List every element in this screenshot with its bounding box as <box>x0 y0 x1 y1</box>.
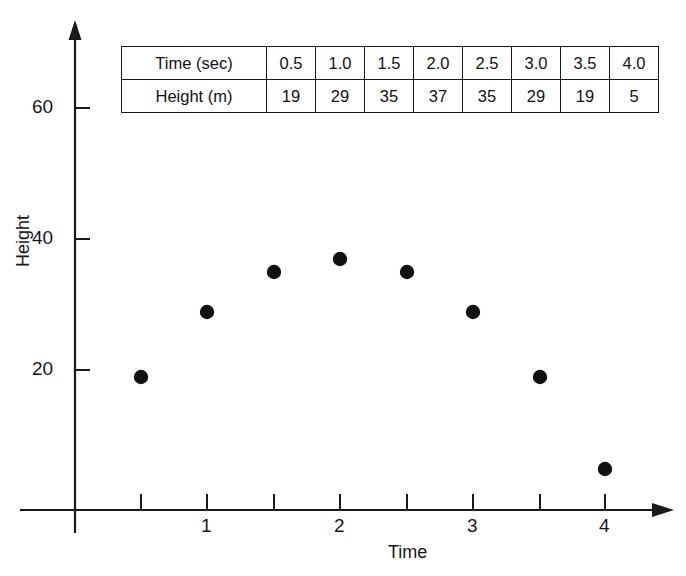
y-axis-arrow-icon <box>69 20 82 40</box>
table-cell: 29 <box>512 80 561 113</box>
table-cell: 3.0 <box>512 47 561 80</box>
table-row-height: Height (m) 19 29 35 37 35 29 19 5 <box>122 80 659 113</box>
data-point <box>333 252 347 266</box>
table-cell: 1.5 <box>365 47 414 80</box>
data-table: Time (sec) 0.5 1.0 1.5 2.0 2.5 3.0 3.5 4… <box>121 46 659 113</box>
table-cell: 3.5 <box>561 47 610 80</box>
table-cell: 37 <box>414 80 463 113</box>
data-point-series <box>134 252 612 476</box>
table-cell: 19 <box>561 80 610 113</box>
table-cell: 35 <box>365 80 414 113</box>
y-axis <box>69 20 91 512</box>
data-point <box>466 305 480 319</box>
y-tick-label-40: 40 <box>32 227 53 249</box>
table-cell: 4.0 <box>610 47 659 80</box>
y-axis-title: Height <box>13 215 34 267</box>
x-axis-title: Time <box>388 542 427 563</box>
data-point <box>200 305 214 319</box>
data-point <box>598 462 612 476</box>
table-cell: 5 <box>610 80 659 113</box>
data-point <box>267 265 281 279</box>
y-tick-label-20: 20 <box>32 358 53 380</box>
data-point <box>400 265 414 279</box>
x-tick-label-1: 1 <box>201 515 212 537</box>
data-point <box>533 370 547 384</box>
table-cell: 2.5 <box>463 47 512 80</box>
table-cell: 2.0 <box>414 47 463 80</box>
y-tick-label-60: 60 <box>32 96 53 118</box>
x-axis-arrow-icon <box>652 503 674 517</box>
x-tick-label-4: 4 <box>599 515 610 537</box>
x-tick-label-3: 3 <box>467 515 478 537</box>
x-axis <box>20 494 674 533</box>
x-tick-label-2: 2 <box>334 515 345 537</box>
table-row-time: Time (sec) 0.5 1.0 1.5 2.0 2.5 3.0 3.5 4… <box>122 47 659 80</box>
table-cell: 0.5 <box>267 47 316 80</box>
table-cell: 1.0 <box>316 47 365 80</box>
data-point <box>134 370 148 384</box>
table-rowheader-time: Time (sec) <box>122 47 267 80</box>
table-cell: 29 <box>316 80 365 113</box>
table-cell: 19 <box>267 80 316 113</box>
table-rowheader-height: Height (m) <box>122 80 267 113</box>
chart-page: 60 40 20 1 2 3 4 Time Height Time (sec) … <box>0 0 686 576</box>
table-cell: 35 <box>463 80 512 113</box>
